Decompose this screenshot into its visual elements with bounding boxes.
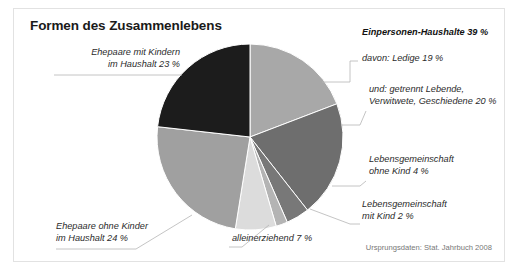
label-ehepaare-mit-kindern: Ehepaare mit Kindernim Haushalt 23 % — [24, 47, 180, 70]
leader-lg-mit-kind — [310, 209, 360, 224]
label-getrennt-lebende: und: getrennt Lebende,Verwitwete, Geschi… — [369, 84, 496, 107]
pie-slice — [250, 44, 337, 137]
label-einpersonen-haushalte: Einpersonen-Haushalte 39 % — [362, 27, 488, 39]
label-alleinerziehend: alleinerziehend 7 % — [232, 233, 312, 245]
leader-getrennt — [341, 111, 366, 125]
label-lebensgemeinschaft-ohne-kind: Lebensgemeinschaftohne Kind 4 % — [369, 154, 454, 177]
pie-slice — [235, 137, 276, 230]
pie-slices — [157, 44, 343, 230]
pie-slice — [157, 127, 250, 229]
page-title: Formen des Zusammenlebens — [30, 18, 222, 33]
leader-lg-ohne-kind — [332, 181, 366, 186]
source-note: Ursprungsdaten: Stat. Jahrbuch 2008 — [366, 243, 492, 252]
infographic-card: Formen des Zusammenlebens Ehepaar — [13, 8, 505, 262]
label-ehepaare-ohne-kinder: Ehepaare ohne Kinderim Haushalt 24 % — [56, 221, 148, 244]
pie-slice — [250, 137, 287, 226]
pie-slice — [250, 104, 343, 210]
pie-slice — [250, 137, 307, 222]
leader-ledige — [322, 61, 358, 82]
label-lebensgemeinschaft-mit-kind: Lebensgemeinschaftmit Kind 2 % — [362, 199, 447, 222]
label-ledige: davon: Ledige 19 % — [362, 53, 443, 65]
